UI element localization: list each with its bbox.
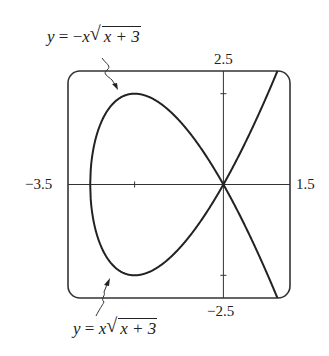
curve-upper-branch — [90, 94, 290, 329]
tick-label-y-min: −2.5 — [207, 304, 234, 319]
tick-label-x-min: −3.5 — [25, 177, 52, 192]
curve-lower-branch — [90, 40, 290, 275]
eq-bottom-radicand: x + 3 — [120, 319, 156, 338]
eq-top-equals: = − — [55, 27, 83, 46]
annotation-bottom-equation: y = x√x + 3 — [73, 318, 157, 337]
eq-bottom-equals: = — [81, 319, 99, 338]
eq-top-x: x — [82, 27, 90, 46]
annotation-top-equation: y = −x√x + 3 — [47, 26, 141, 45]
arrow-top-head-icon — [112, 83, 118, 90]
sqrt-icon: √x + 3 — [90, 26, 141, 45]
arrow-bottom-leader — [96, 282, 108, 316]
eq-top-lhs: y — [47, 27, 55, 46]
eq-top-radicand: x + 3 — [104, 27, 140, 46]
tick-label-x-max: 1.5 — [296, 177, 315, 192]
sqrt-icon: √x + 3 — [106, 318, 157, 337]
arrow-bottom-head-icon — [104, 278, 110, 286]
tick-label-y-max: 2.5 — [214, 52, 233, 67]
arrow-top-leader — [102, 58, 116, 86]
eq-bottom-x: x — [99, 319, 107, 338]
eq-bottom-lhs: y — [73, 319, 81, 338]
